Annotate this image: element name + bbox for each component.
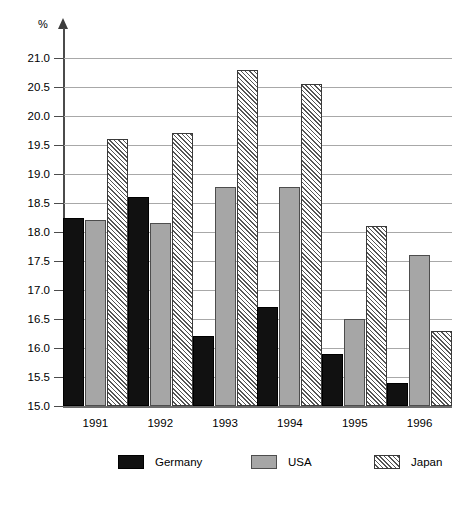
- bar-japan-1992: [172, 133, 193, 406]
- bar-usa-1991: [85, 220, 106, 406]
- y-axis-tick: [54, 203, 64, 204]
- chart-legend: GermanyUSAJapan: [63, 452, 452, 476]
- y-axis-tick: [54, 87, 64, 88]
- y-axis-tick-label: 20.5: [4, 81, 50, 93]
- y-axis-tick-label: 15.0: [4, 400, 50, 412]
- y-axis-tick-label: 21.0: [4, 52, 50, 64]
- y-axis-tick-label: 16.5: [4, 313, 50, 325]
- bar-germany-1993: [193, 336, 214, 406]
- x-axis-label-1991: 1991: [63, 416, 127, 430]
- y-axis-tick: [54, 174, 64, 175]
- legend-swatch-japan-icon: [374, 455, 400, 469]
- legend-item-usa: USA: [251, 452, 312, 472]
- y-axis-tick: [54, 58, 64, 59]
- x-axis-label-1993: 1993: [193, 416, 257, 430]
- bar-usa-1996: [409, 255, 430, 406]
- y-axis-tick-label: 15.5: [4, 371, 50, 383]
- bar-germany-1992: [128, 197, 149, 406]
- x-axis-label-1996: 1996: [388, 416, 452, 430]
- bar-japan-1993: [237, 70, 258, 406]
- y-axis-unit-label: %: [38, 18, 48, 30]
- y-axis-tick: [54, 145, 64, 146]
- bar-usa-1992: [150, 223, 171, 406]
- y-axis-tick: [54, 116, 64, 117]
- bar-japan-1996: [431, 331, 452, 406]
- x-axis-line: [63, 406, 452, 408]
- bar-japan-1995: [366, 226, 387, 406]
- bar-usa-1993: [215, 187, 236, 406]
- x-axis-label-1995: 1995: [323, 416, 387, 430]
- x-axis-label-1992: 1992: [128, 416, 192, 430]
- bar-usa-1995: [344, 319, 365, 406]
- bar-japan-1991: [107, 139, 128, 406]
- bar-germany-1996: [387, 383, 408, 406]
- gridline: [63, 58, 452, 59]
- legend-item-germany: Germany: [118, 452, 202, 472]
- y-axis-tick-label: 19.5: [4, 139, 50, 151]
- y-axis-tick-label: 17.5: [4, 255, 50, 267]
- legend-label: USA: [288, 455, 312, 469]
- legend-label: Japan: [411, 455, 442, 469]
- bar-japan-1994: [301, 84, 322, 406]
- legend-swatch-germany-icon: [118, 455, 144, 469]
- x-axis-label-1994: 1994: [258, 416, 322, 430]
- legend-item-japan: Japan: [374, 452, 442, 472]
- y-axis-tick-label: 16.0: [4, 342, 50, 354]
- bar-germany-1995: [322, 354, 343, 406]
- bar-germany-1991: [63, 218, 84, 407]
- bar-germany-1994: [257, 307, 278, 406]
- y-axis-tick-label: 18.0: [4, 226, 50, 238]
- legend-label: Germany: [155, 455, 202, 469]
- y-axis-tick-label: 19.0: [4, 168, 50, 180]
- y-axis-tick-label: 17.0: [4, 284, 50, 296]
- bar-usa-1994: [279, 187, 300, 406]
- y-axis-tick-label: 20.0: [4, 110, 50, 122]
- legend-swatch-usa-icon: [251, 455, 277, 469]
- bar-chart: % 21.020.520.019.519.018.518.017.517.016…: [0, 0, 475, 506]
- y-axis-tick-label: 18.5: [4, 197, 50, 209]
